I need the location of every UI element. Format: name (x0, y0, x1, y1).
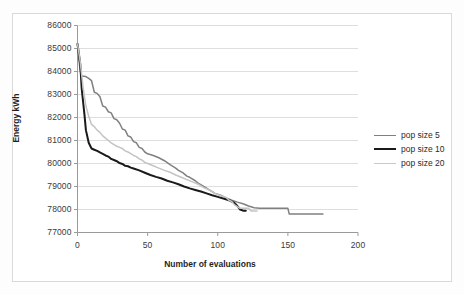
x-tick-label: 50 (133, 240, 163, 250)
y-tick-label: 77000 (28, 227, 72, 237)
y-tick-label: 78000 (28, 204, 72, 214)
x-axis-title: Number of evaluations (140, 259, 280, 269)
x-axis-ticks (74, 26, 358, 237)
y-tick-label: 86000 (28, 20, 72, 30)
x-tick-label: 100 (203, 240, 233, 250)
y-tick-label: 80000 (28, 158, 72, 168)
y-tick-label: 82000 (28, 112, 72, 122)
series-line-pop-size-5 (78, 44, 323, 214)
legend-item: pop size 20 (374, 156, 454, 170)
x-tick-label: 0 (63, 240, 93, 250)
y-tick-label: 79000 (28, 181, 72, 191)
chart-figure: 8600085000840008300082000810008000079000… (0, 0, 464, 295)
legend-swatch (374, 148, 396, 150)
series-line-pop-size-10 (78, 44, 246, 211)
legend-item: pop size 10 (374, 142, 454, 156)
x-tick-label: 200 (343, 240, 373, 250)
axis-lines (78, 26, 359, 233)
y-tick-label: 81000 (28, 135, 72, 145)
series-line-pop-size-20 (78, 44, 258, 211)
chart-legend: pop size 5pop size 10pop size 20 (374, 128, 454, 170)
legend-label: pop size 20 (401, 158, 444, 168)
gridlines (78, 26, 359, 233)
x-tick-label: 150 (273, 240, 303, 250)
y-tick-label: 84000 (28, 66, 72, 76)
series-lines (78, 44, 323, 214)
legend-item: pop size 5 (374, 128, 454, 142)
legend-label: pop size 10 (401, 144, 444, 154)
legend-swatch (374, 163, 396, 164)
y-tick-label: 85000 (28, 43, 72, 53)
y-tick-label: 83000 (28, 89, 72, 99)
y-axis-title: Energy kWh (11, 83, 21, 153)
legend-label: pop size 5 (401, 130, 440, 140)
legend-swatch (374, 135, 396, 136)
